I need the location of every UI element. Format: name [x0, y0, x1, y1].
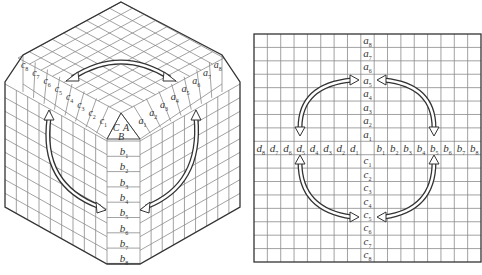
cell-label-a8: a8: [214, 59, 222, 72]
cell-label-b4: b4: [120, 191, 129, 205]
grid-line: [87, 21, 190, 77]
cube-arrow-top: [66, 62, 176, 81]
grid-line: [110, 8, 213, 64]
cell-label-a3: a3: [160, 99, 168, 112]
grid-arrow-a5-d5: [295, 75, 359, 136]
grid-line: [52, 21, 155, 77]
grid-line: [140, 125, 240, 182]
cell-label-a2: a2: [149, 107, 157, 120]
cell-label-c6: c6: [364, 221, 372, 235]
diagram-canvas: b1a1c1b2a2c2b3a3c3b4a4c4b5a5c5b6a6c6b7a7…: [0, 0, 482, 275]
grid-line: [140, 166, 240, 223]
cell-label-B: B: [118, 131, 124, 142]
cell-label-b2: b2: [390, 142, 399, 156]
cell-label-b5: b5: [120, 206, 129, 220]
cell-label-a3: a3: [363, 101, 372, 115]
cell-label-a7: a7: [363, 47, 372, 61]
cell-label-c8: c8: [21, 59, 28, 72]
cell-label-b3: b3: [403, 142, 412, 156]
cell-label-c2: c2: [364, 168, 372, 182]
grid-line: [140, 84, 240, 141]
cell-label-c4: c4: [66, 91, 73, 104]
grid-arrow-a5-b5: [377, 75, 439, 136]
cell-label-b6: b6: [120, 222, 129, 236]
grid-line: [361, 141, 374, 154]
grid-line: [5, 180, 107, 237]
cell-label-a5: a5: [181, 83, 189, 96]
cell-label-c8: c8: [364, 248, 372, 262]
cell-label-d2: d2: [337, 142, 346, 156]
grid-line: [140, 180, 240, 237]
grid-line: [140, 98, 240, 155]
cell-label-c6: c6: [43, 75, 50, 88]
cell-label-c5: c5: [364, 208, 372, 222]
cell-label-c1: c1: [100, 115, 107, 128]
cell-label-c1: c1: [364, 154, 372, 168]
cell-label-b5: b5: [430, 142, 439, 156]
cell-label-a4: a4: [171, 91, 179, 104]
cell-label-b3: b3: [120, 176, 129, 190]
cube-top-face-grid: [18, 2, 224, 113]
grid-line: [5, 152, 107, 209]
grid-arrow-d5-c5: [295, 155, 359, 222]
cell-label-d8: d8: [256, 142, 265, 156]
cell-label-b8: b8: [470, 142, 479, 156]
grid-line: [121, 58, 224, 113]
cell-label-a8: a8: [363, 34, 372, 48]
cell-label-a1: a1: [138, 115, 146, 128]
cell-label-c3: c3: [77, 99, 84, 112]
unfolded-grid-labels: a1c1b1d1a2c2b2d2a3c3b3d3a4c4b4d4a5c5b5d5…: [256, 34, 478, 263]
cell-label-c7: c7: [364, 235, 372, 249]
cell-label-b1: b1: [377, 142, 386, 156]
cell-label-c5: c5: [55, 83, 62, 96]
cell-label-d6: d6: [283, 142, 292, 156]
cell-label-b6: b6: [443, 142, 452, 156]
cell-label-a5: a5: [363, 74, 372, 88]
grid-line: [361, 141, 374, 154]
cell-label-b8: b8: [120, 252, 129, 266]
cell-label-d5: d5: [296, 142, 305, 156]
cell-label-d3: d3: [323, 142, 332, 156]
cell-label-b2: b2: [120, 160, 129, 174]
cell-label-b7: b7: [457, 142, 466, 156]
grid-line: [87, 39, 190, 94]
cell-label-b7: b7: [120, 237, 129, 251]
cell-label-a6: a6: [363, 60, 372, 74]
cell-label-a2: a2: [363, 114, 372, 128]
cube-arrow-left: [44, 110, 106, 213]
cell-label-d1: d1: [350, 142, 359, 156]
grid-line: [29, 8, 132, 64]
cell-label-c3: c3: [364, 181, 372, 195]
cell-label-c4: c4: [364, 195, 372, 209]
cell-label-a6: a6: [192, 75, 200, 88]
cell-label-d7: d7: [270, 142, 279, 156]
cell-label-a4: a4: [363, 87, 372, 101]
cell-label-b1: b1: [120, 145, 129, 159]
grid-arrow-b5-c5: [377, 155, 439, 222]
cell-label-b4: b4: [417, 142, 426, 156]
cell-label-d4: d4: [310, 142, 319, 156]
cell-label-a1: a1: [363, 128, 372, 142]
unfolded-grid-figure: a1c1b1d1a2c2b2d2a3c3b3d3a4c4b4d4a5c5b5d5…: [254, 34, 481, 263]
grid-line: [5, 111, 107, 168]
grid-line: [52, 39, 155, 94]
cube-figure: b1a1c1b2a2c2b3a3c3b4a4c4b5a5c5b6a6c6b7a7…: [5, 2, 240, 266]
